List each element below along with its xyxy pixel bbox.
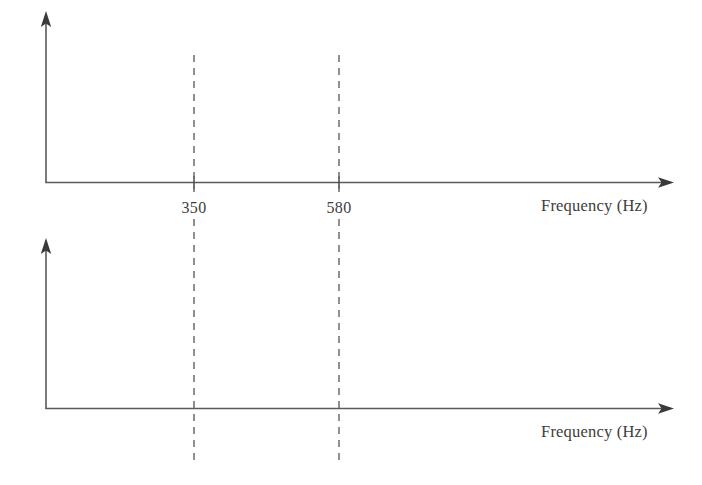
bottom-x-axis-title: Frequency (Hz): [541, 422, 648, 441]
bottom-panel: Frequency (Hz): [41, 238, 674, 441]
frequency-marker-lines: [194, 55, 339, 462]
top-panel: 350 580 Frequency (Hz): [41, 11, 674, 216]
top-tick-label-580: 580: [327, 199, 352, 216]
frequency-axis-figure: 350 580 Frequency (Hz) Frequency (Hz): [0, 0, 702, 485]
top-x-axis-title: Frequency (Hz): [541, 196, 648, 215]
figure-canvas: 350 580 Frequency (Hz) Frequency (Hz): [0, 0, 702, 485]
top-tick-label-350: 350: [182, 199, 207, 216]
